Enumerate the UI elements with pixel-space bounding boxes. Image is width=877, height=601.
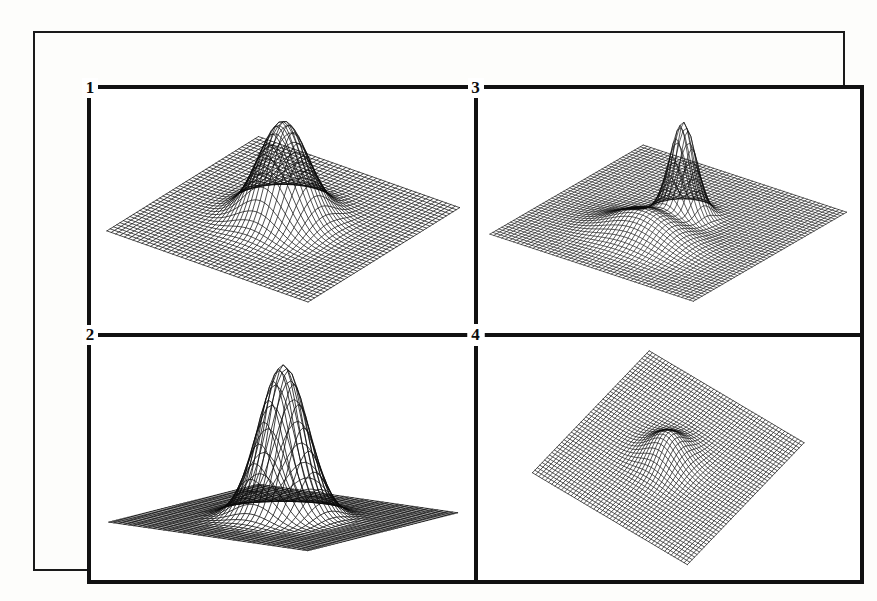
- wireframe-mesh-3: [476, 89, 861, 335]
- panel-label-1: 1: [82, 78, 98, 98]
- wireframe-mesh-1: [91, 89, 476, 335]
- surface-plot-panel-2: [91, 335, 476, 581]
- figure-root: 1 2 3 4: [0, 0, 877, 601]
- inner-frame: 1 2 3 4: [87, 85, 864, 584]
- panel-label-4: 4: [467, 324, 484, 346]
- wireframe-mesh-2: [91, 335, 476, 581]
- surface-plot-panel-3: [476, 89, 861, 335]
- panel-label-3: 3: [468, 78, 484, 98]
- panel-label-2: 2: [82, 325, 98, 345]
- surface-plot-panel-4: [476, 335, 861, 581]
- wireframe-mesh-4: [476, 335, 861, 581]
- surface-plot-panel-1: [91, 89, 476, 335]
- outer-frame: 1 2 3 4: [33, 31, 845, 571]
